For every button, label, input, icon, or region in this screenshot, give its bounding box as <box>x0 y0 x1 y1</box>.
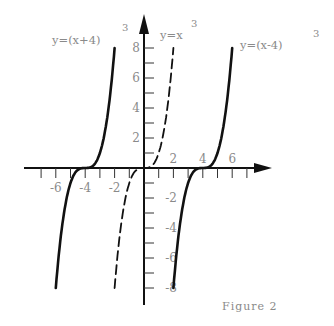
y-axis-arrow-icon <box>139 14 149 34</box>
y-tick-label: -8 <box>165 281 177 295</box>
y-tick-label: 4 <box>132 101 140 115</box>
label-y-x-minus-4-exponent: 3 <box>313 28 319 39</box>
x-tick-label: -2 <box>109 181 121 195</box>
cubic-functions-chart: -6-4-22468642-2-4-6-8 y=(x+4) 3 y=x 3 y=… <box>0 0 334 326</box>
x-axis-arrow-icon <box>254 163 272 173</box>
label-y-x-plus-4-cubed: y=(x+4) <box>51 33 101 47</box>
y-tick-label: -2 <box>165 191 177 205</box>
x-tick-label: -6 <box>50 181 62 195</box>
x-tick-label: 6 <box>228 152 236 166</box>
label-y-x-plus-4-exponent: 3 <box>122 22 128 33</box>
x-tick-label: -4 <box>79 181 91 195</box>
y-tick-label: -4 <box>165 221 177 235</box>
figure-caption: Figure 2 <box>222 300 278 313</box>
x-tick-label: 4 <box>199 152 207 166</box>
label-y-x-cubed-exponent: 3 <box>191 18 197 29</box>
label-y-x-cubed: y=x <box>159 28 183 42</box>
y-tick-label: 6 <box>132 71 140 85</box>
y-tick-label: 2 <box>132 131 140 145</box>
x-tick-label: 2 <box>170 152 178 166</box>
y-tick-label: 8 <box>132 41 140 55</box>
label-y-x-minus-4-cubed: y=(x-4) <box>239 38 283 52</box>
